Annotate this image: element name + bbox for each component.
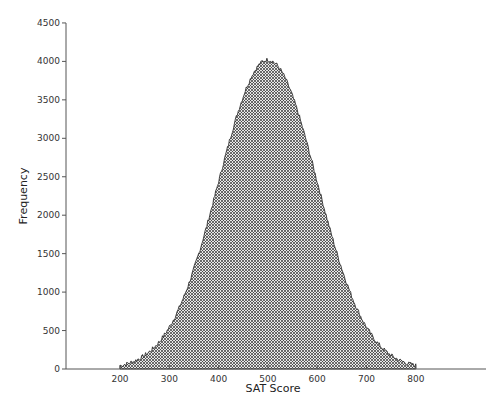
- x-tick-label: 700: [358, 374, 375, 384]
- y-axis-title: Frequency: [17, 167, 30, 224]
- y-tick-label: 3000: [37, 133, 60, 143]
- distribution-area: [120, 58, 416, 369]
- x-tick-label: 300: [161, 374, 178, 384]
- x-tick-label: 400: [210, 374, 227, 384]
- y-tick-label: 4000: [37, 56, 60, 66]
- y-tick-label: 2000: [37, 210, 60, 220]
- plot-area: [120, 58, 416, 369]
- y-tick-label: 1500: [37, 249, 60, 259]
- y-tick-label: 0: [54, 364, 60, 374]
- y-tick-label: 3500: [37, 95, 60, 105]
- x-tick-label: 800: [407, 374, 424, 384]
- y-tick-label: 1000: [37, 287, 60, 297]
- y-tick-label: 2500: [37, 172, 60, 182]
- y-tick-label: 4500: [37, 18, 60, 28]
- x-tick-label: 200: [111, 374, 128, 384]
- y-tick-label: 500: [43, 326, 60, 336]
- x-axis-title: SAT Score: [246, 382, 301, 395]
- x-tick-label: 600: [309, 374, 326, 384]
- frequency-histogram: 050010001500200025003000350040004500 200…: [0, 0, 500, 410]
- y-axis-ticks: 050010001500200025003000350040004500: [37, 18, 66, 374]
